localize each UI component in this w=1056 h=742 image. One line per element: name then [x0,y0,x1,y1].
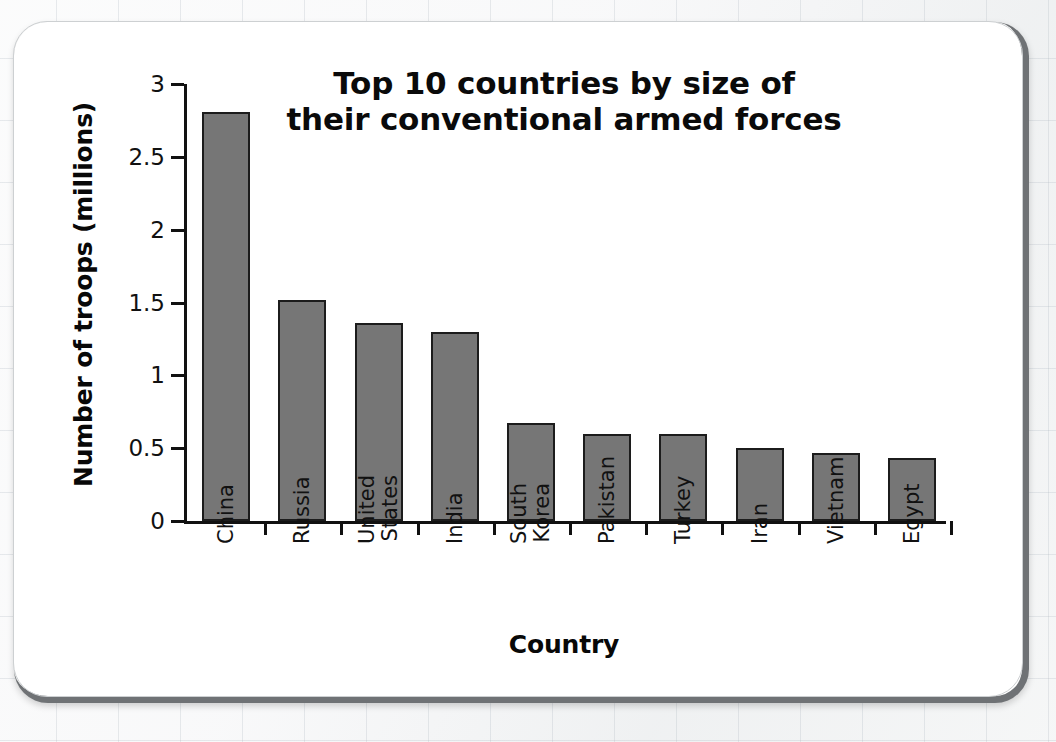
x-category-label: China [215,484,238,544]
x-category-label-line: Turkey [672,476,695,544]
y-tick-label: 0.5 [128,435,165,461]
x-category-label-line: India [444,492,467,544]
y-tick-mark [171,229,184,232]
x-tick-mark [264,521,267,535]
chart-card: Top 10 countries by size oftheir convent… [14,22,1029,703]
x-axis-title: Country [184,630,944,659]
x-category-label: Iran [749,503,772,544]
y-tick-label: 2.5 [128,144,165,170]
x-tick-mark [493,521,496,535]
x-category-label: Egypt [901,483,924,544]
y-tick-label: 0 [150,508,165,534]
y-tick-mark [171,83,184,86]
y-tick-label: 2 [150,217,165,243]
x-tick-mark [798,521,801,535]
x-tick-mark [874,521,877,535]
x-tick-mark [340,521,343,535]
x-category-label-line: Egypt [901,483,924,544]
plot-area: 00.511.522.53 ChinaRussiaUnitedStatesInd… [184,84,946,524]
bar-chart-figure: Top 10 countries by size oftheir convent… [14,22,1022,696]
x-category-label-line: Korea [531,483,554,544]
y-tick-mark [171,156,184,159]
y-axis-title: Number of troops (millions) [69,85,98,505]
x-category-label-line: United [356,475,379,544]
x-category-label: Turkey [672,476,695,544]
x-category-label-line: States [378,475,401,544]
x-tick-mark [417,521,420,535]
y-tick-label: 3 [150,71,165,97]
x-category-label-line: Iran [749,503,772,544]
x-category-label-line: Pakistan [596,456,619,544]
y-tick-mark [171,520,184,523]
x-category-label: UnitedStates [356,475,401,544]
x-category-label-line: Russia [291,476,314,544]
x-tick-mark [569,521,572,535]
x-category-label: Pakistan [596,456,619,544]
y-tick-mark [171,374,184,377]
y-axis-line [184,84,187,524]
x-category-label-line: Vietnam [825,456,848,544]
x-category-label-line: China [215,484,238,544]
x-tick-mark [721,521,724,535]
x-category-label: SouthKorea [508,483,553,544]
y-tick-label: 1.5 [128,290,165,316]
bar [202,112,250,521]
x-category-label: Vietnam [825,456,848,544]
x-tick-mark [950,521,953,535]
x-tick-mark [645,521,648,535]
x-category-label: Russia [291,476,314,544]
y-tick-mark [171,447,184,450]
x-category-label-line: South [508,483,531,544]
y-tick-label: 1 [150,362,165,388]
x-category-label: India [444,492,467,544]
y-tick-mark [171,302,184,305]
